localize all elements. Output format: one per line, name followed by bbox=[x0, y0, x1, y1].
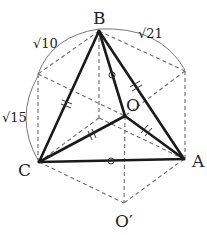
label-B: B bbox=[93, 8, 106, 28]
edge-BO bbox=[99, 31, 125, 116]
edge-OA bbox=[125, 116, 184, 159]
length-sqrt10: √10 bbox=[33, 36, 58, 51]
tetrahedron-edges bbox=[39, 31, 184, 162]
label-A: A bbox=[191, 151, 205, 171]
edge-CA bbox=[39, 159, 184, 162]
edge-CO bbox=[39, 116, 125, 162]
label-O: O bbox=[126, 95, 140, 115]
arc-sqrt15 bbox=[26, 76, 38, 160]
label-O-prime: O′ bbox=[115, 211, 133, 231]
length-sqrt15: √15 bbox=[2, 110, 27, 125]
edge-BA bbox=[99, 31, 184, 159]
length-sqrt21: √21 bbox=[138, 26, 163, 41]
tetrahedron-box-diagram: B O C A O′ √10 √21 √15 bbox=[0, 0, 207, 235]
label-C: C bbox=[18, 160, 31, 180]
